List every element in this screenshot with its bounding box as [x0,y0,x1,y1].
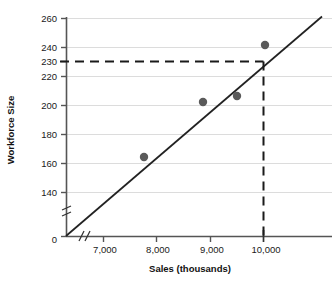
data-point [261,41,269,49]
y-axis-ticks [61,19,66,237]
y-tick-label-0: 0 [52,234,57,245]
y-tick-label-230: 230 [41,56,57,67]
y-tick-label-240: 240 [41,42,57,53]
y-tick-label-260: 260 [41,13,57,24]
data-point [140,153,148,161]
data-points [140,41,269,161]
data-point [233,92,241,100]
x-tick-label-9000: 9,000 [200,244,224,255]
y-tick-label-160: 160 [41,158,57,169]
scatter-chart: 260 240 230 220 200 180 160 140 0 7,000 … [0,0,332,283]
data-point [199,98,207,106]
y-tick-label-140: 140 [41,187,57,198]
y-axis-title: Workforce Size [5,96,16,164]
x-tick-label-10000: 10,000 [251,244,280,255]
regression-line [66,17,322,237]
x-tick-label-8000: 8,000 [146,244,170,255]
y-tick-label-180: 180 [41,129,57,140]
y-tick-label-220: 220 [41,71,57,82]
chart-canvas: 260 240 230 220 200 180 160 140 0 7,000 … [0,0,332,283]
x-axis-title: Sales (thousands) [149,263,231,274]
gridlines [66,19,332,193]
y-tick-label-200: 200 [41,100,57,111]
x-tick-label-7000: 7,000 [93,244,117,255]
